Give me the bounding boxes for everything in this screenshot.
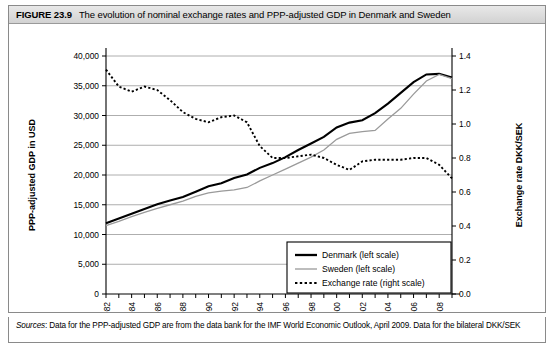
y-tick-label-left: 30,000 [73, 111, 99, 121]
y-tick-label-left: 0 [94, 289, 99, 299]
y-axis-title-left: PPP-adjusted GDP in USD [27, 119, 37, 231]
x-tick-label: 2000 [332, 302, 342, 312]
figure-header: FIGURE 23.9 The evolution of nominal exc… [9, 6, 545, 24]
x-tick-label: 2008 [435, 302, 445, 312]
y-tick-label-left: 25,000 [73, 140, 99, 150]
x-tick-label: 1992 [230, 302, 240, 312]
x-tick-label: 1996 [281, 302, 291, 312]
y-tick-label-right: 0.6 [459, 187, 471, 197]
series-line-1 [106, 74, 452, 223]
y-tick-label-right: 0.4 [459, 221, 471, 231]
line-chart: 05,00010,00015,00020,00025,00030,00035,0… [9, 24, 545, 312]
x-tick-label: 1984 [127, 302, 137, 312]
figure-sources: Sources: Data for the PPP-adjusted GDP a… [8, 317, 546, 343]
x-tick-label: 2006 [409, 302, 419, 312]
legend-label-3: Exchange rate (right scale) [322, 278, 425, 288]
y-tick-label-left: 5,000 [78, 259, 99, 269]
y-tick-label-left: 35,000 [73, 81, 99, 91]
chart-plot-area: 05,00010,00015,00020,00025,00030,00035,0… [9, 24, 545, 312]
legend-label-2: Sweden (left scale) [322, 264, 395, 274]
x-tick-label: 1994 [255, 302, 265, 312]
x-tick-label: 1988 [178, 302, 188, 312]
x-tick-label: 1982 [102, 302, 112, 312]
y-tick-label-left: 20,000 [73, 170, 99, 180]
figure-number: FIGURE 23.9 [16, 9, 72, 20]
y-tick-label-right: 1.0 [459, 119, 471, 129]
figure-title: The evolution of nominal exchange rates … [79, 9, 451, 20]
x-tick-label: 1998 [307, 302, 317, 312]
x-tick-label: 2002 [358, 302, 368, 312]
y-tick-label-left: 40,000 [73, 51, 99, 61]
figure-container: FIGURE 23.9 The evolution of nominal exc… [8, 5, 546, 313]
y-tick-label-right: 0.8 [459, 153, 471, 163]
sources-text: : Data for the PPP-adjusted GDP are from… [45, 321, 520, 330]
y-tick-label-right: 1.2 [459, 85, 471, 95]
y-tick-label-right: 1.4 [459, 51, 471, 61]
x-tick-label: 2004 [383, 302, 393, 312]
x-tick-label: 1986 [153, 302, 163, 312]
y-tick-label-left: 10,000 [73, 230, 99, 240]
y-tick-label-right: 0.0 [459, 289, 471, 299]
y-axis-title-right: Exchange rate DKK/SEK [514, 122, 524, 227]
sources-label: Sources [16, 321, 45, 330]
y-tick-label-left: 15,000 [73, 200, 99, 210]
legend-label-1: Denmark (left scale) [322, 250, 399, 260]
y-tick-label-right: 0.2 [459, 255, 471, 265]
x-tick-label: 1990 [204, 302, 214, 312]
